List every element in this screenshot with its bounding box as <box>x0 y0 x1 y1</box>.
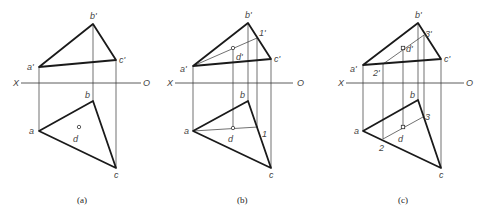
label-1-prime: 1' <box>259 28 266 38</box>
label-b-prime: b' <box>245 10 252 20</box>
label-c-prime: c' <box>274 54 281 64</box>
aux-line-a-1 <box>193 127 258 131</box>
label-a-prime: a' <box>350 64 357 74</box>
label-b: b <box>85 90 90 100</box>
front-view-triangle <box>39 24 116 67</box>
point-d <box>401 125 404 128</box>
label-d-prime: d' <box>236 52 243 62</box>
label-2: 2 <box>378 143 384 153</box>
label-c-prime: c' <box>119 55 126 65</box>
caption-c: (c) <box>398 195 408 205</box>
caption-a: (a) <box>77 195 87 205</box>
label-b-prime: b' <box>415 10 422 20</box>
axis-label-x: X <box>166 78 174 88</box>
panel-b: X O a' b' c' d' 1' b a c d 1 (b) <box>166 10 304 205</box>
point-d <box>231 126 234 129</box>
axis-label-x: X <box>337 78 345 88</box>
label-c: c <box>114 170 119 180</box>
label-a: a <box>184 126 189 136</box>
point-d <box>77 125 80 128</box>
label-c-prime: c' <box>444 54 451 64</box>
label-d: d <box>398 134 404 144</box>
axis-label-o: O <box>143 78 150 88</box>
label-b-prime: b' <box>90 11 97 21</box>
label-d-prime: d' <box>406 44 413 54</box>
point-d-prime <box>401 46 404 49</box>
panel-c: X O a' b' c' d' 2' 3' b a c d 2 3 (c) <box>337 10 473 205</box>
label-c: c <box>439 170 444 180</box>
label-d: d <box>73 134 79 144</box>
label-d: d <box>228 134 234 144</box>
label-a: a <box>29 126 34 136</box>
label-2-prime: 2' <box>372 68 380 78</box>
point-d-prime <box>231 46 234 49</box>
projection-figure: X O a' b' c' b a c d (a) X O <box>0 0 480 213</box>
panel-a: X O a' b' c' b a c d (a) <box>12 11 150 205</box>
caption-b: (b) <box>237 195 248 205</box>
axis-label-o: O <box>297 78 304 88</box>
label-a-prime: a' <box>27 62 34 72</box>
label-b: b <box>240 90 245 100</box>
axis-label-x: X <box>12 78 20 88</box>
axis-label-o: O <box>466 78 473 88</box>
label-b: b <box>410 90 415 100</box>
label-a: a <box>354 126 359 136</box>
label-3: 3 <box>425 112 430 122</box>
label-a-prime: a' <box>180 64 187 74</box>
label-3-prime: 3' <box>425 29 432 39</box>
label-c: c <box>269 170 274 180</box>
label-1: 1 <box>262 129 267 139</box>
